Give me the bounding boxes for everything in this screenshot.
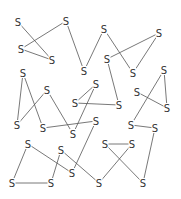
node-J: S [161, 65, 167, 76]
node-F: S [101, 24, 107, 35]
node-Z: S [102, 139, 108, 150]
node-V: S [128, 120, 134, 131]
node-T: S [70, 129, 76, 140]
edge-K-R [17, 73, 23, 125]
node-S1: S [40, 123, 46, 134]
edge-M-T [73, 84, 96, 134]
edge-O-P [75, 103, 119, 105]
node-C: S [18, 44, 24, 55]
edge-L-R [17, 90, 47, 125]
edge-G-I [133, 33, 159, 73]
node-Q: S [164, 103, 170, 114]
graph-diagram: SSSSSSSSSSSSSSSSSSSSSSSSSSSSSSSS [0, 0, 181, 199]
node-H: S [104, 54, 110, 65]
node-AA: S [129, 139, 135, 150]
node-O: S [72, 98, 78, 109]
edge-L-T [47, 90, 73, 134]
edge-X-AB [28, 144, 72, 173]
edge-F-I [104, 29, 133, 73]
node-K: S [20, 68, 26, 79]
node-I: S [130, 68, 136, 79]
node-G: S [156, 28, 162, 39]
node-R: S [14, 120, 20, 131]
node-N: S [134, 87, 140, 98]
node-AC: S [9, 178, 15, 189]
node-M: S [93, 79, 99, 90]
node-AB: S [69, 168, 75, 179]
node-AD: S [48, 178, 54, 189]
graph-canvas: SSSSSSSSSSSSSSSSSSSSSSSSSSSSSSSS [0, 0, 181, 199]
edge-Z-AF [105, 144, 143, 183]
node-U: S [93, 116, 99, 127]
node-AF: S [140, 178, 146, 189]
node-Y: S [58, 145, 64, 156]
edge-K-S1 [23, 73, 43, 128]
edge-AA-AE [99, 144, 132, 183]
edge-B-C [21, 21, 66, 49]
edge-W-AF [143, 128, 155, 183]
edge-N-Q [137, 92, 167, 108]
node-AE: S [96, 178, 102, 189]
edges-layer [12, 21, 167, 183]
node-W: S [152, 123, 158, 134]
node-X: S [25, 139, 31, 150]
node-E: S [81, 66, 87, 77]
edge-S1-U [43, 121, 96, 128]
edge-H-P [107, 59, 119, 105]
node-B: S [63, 16, 69, 27]
node-A: S [15, 17, 21, 28]
node-D: S [49, 55, 55, 66]
node-P: S [116, 100, 122, 111]
edge-B-E [66, 21, 84, 71]
node-L: S [44, 85, 50, 96]
